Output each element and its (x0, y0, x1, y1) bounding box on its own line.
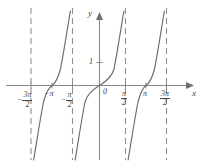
x-tick-label-pi-over-2: π 2 (121, 89, 127, 107)
fraction-3pi-over-2: 3π 2 (22, 91, 32, 108)
fraction-3pi-over-2-positive: 3π 2 (160, 90, 170, 107)
tangent-graph-figure: y x 1 0 − 3π 2 −π − π 2 π 2 π (0, 0, 204, 163)
x-tick-label-3pi-over-2: 3π 2 (160, 89, 170, 107)
x-tick-label-neg-pi: −π (44, 90, 53, 98)
pi-glyph: π (49, 90, 53, 98)
x-axis-label: x (192, 89, 196, 98)
fraction-pi-over-2: π 2 (66, 91, 72, 108)
origin-label: 0 (103, 88, 107, 96)
pi-glyph: π (143, 90, 147, 98)
x-tick-label-neg-3pi-over-2: − 3π 2 (17, 89, 32, 109)
y-tick-label-1: 1 (89, 58, 93, 66)
x-tick-label-neg-pi-over-2: − π 2 (61, 89, 72, 109)
y-axis-arrow (96, 12, 103, 20)
y-axis-label: y (88, 9, 92, 18)
fraction-pi-over-2-positive: π 2 (121, 90, 127, 107)
plot-canvas (0, 0, 204, 163)
x-tick-label-pi: π (143, 90, 147, 98)
